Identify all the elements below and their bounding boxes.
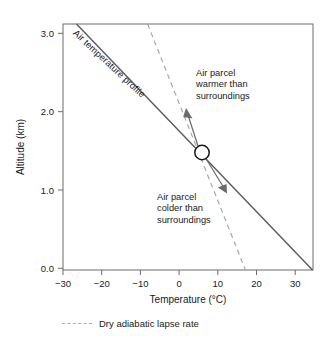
x-tick-label: 10 [213,278,224,289]
chart-canvas: −30 −20 −10 0 10 20 30 0.0 1.0 2.0 3.0 T… [0,0,329,347]
figure-container: −30 −20 −10 0 10 20 30 0.0 1.0 2.0 3.0 T… [0,0,329,347]
colder-annotation-line-3: surroundings [157,215,211,226]
warmer-annotation-line-2: warmer than [196,79,250,90]
colder-annotation-line-2: colder than [157,203,211,214]
warmer-annotation: Air parcel warmer than surroundings [196,68,250,102]
warmer-annotation-line-1: Air parcel [196,68,250,79]
y-axis-tick-labels: 0.0 1.0 2.0 3.0 [41,28,54,274]
colder-annotation: Air parcel colder than surroundings [157,192,211,226]
x-tick-label: 0 [176,278,181,289]
x-tick-label: 30 [290,278,301,289]
dashed-line-swatch-icon [62,323,92,325]
chart-legend: Dry adiabatic lapse rate [62,318,199,329]
warmer-annotation-line-3: surroundings [196,91,250,102]
x-tick-label: 20 [251,278,262,289]
y-tick-label: 1.0 [41,185,54,196]
x-axis-ticks [63,270,295,275]
y-axis-ticks [58,33,63,268]
x-axis-tick-labels: −30 −20 −10 0 10 20 30 [55,278,301,289]
x-tick-label: −20 [94,278,110,289]
x-tick-label: −10 [132,278,148,289]
legend-item-label: Dry adiabatic lapse rate [99,318,199,329]
y-tick-label: 0.0 [41,263,54,274]
y-tick-label: 2.0 [41,106,54,117]
x-tick-label: −30 [55,278,71,289]
x-axis-title: Temperature (°C) [150,294,227,305]
y-axis-title: Altitude (km) [15,119,26,175]
colder-annotation-line-1: Air parcel [157,192,211,203]
parcel-origin-marker [195,145,209,159]
y-tick-label: 3.0 [41,28,54,39]
